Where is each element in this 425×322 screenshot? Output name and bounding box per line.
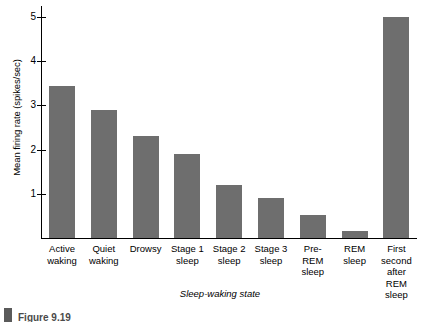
y-axis-line [41, 6, 42, 239]
caption-swatch-icon [4, 308, 12, 322]
x-category-label: Stage 1 sleep [165, 243, 211, 266]
x-category-label: Pre- REM sleep [290, 243, 336, 278]
bar [91, 110, 117, 238]
y-tick-label: 3 [30, 100, 36, 110]
y-tick-label: 1 [30, 189, 36, 199]
x-category-label: Active waking [39, 243, 85, 266]
bar [216, 185, 242, 238]
caption-label: Figure 9.19 [18, 312, 71, 322]
x-category-label: Drowsy [123, 243, 169, 255]
x-category-label: Stage 3 sleep [248, 243, 294, 266]
bar [383, 17, 409, 238]
x-category-label: Stage 2 sleep [206, 243, 252, 266]
y-tick-label: 4 [30, 56, 36, 66]
bar [49, 86, 75, 238]
y-axis-title: Mean firing rate (spikes/sec) [11, 18, 22, 218]
figure-caption: Figure 9.19 [2, 306, 425, 322]
x-category-label: Quiet waking [81, 243, 127, 266]
y-tick-mark [37, 150, 46, 151]
plot-area: 12345 [41, 6, 417, 239]
y-tick-label: 5 [30, 12, 36, 22]
y-tick-label: 2 [30, 145, 36, 155]
x-axis-title: Sleep-waking state [150, 288, 290, 299]
y-tick-mark [37, 61, 46, 62]
figure-bar-chart: Mean firing rate (spikes/sec) 12345 Acti… [0, 0, 425, 322]
bar [174, 154, 200, 238]
bar [258, 198, 284, 238]
bar [342, 231, 368, 238]
x-category-label: REM sleep [332, 243, 378, 266]
y-tick-mark [37, 105, 46, 106]
y-tick-mark [37, 17, 46, 18]
y-tick-mark [37, 194, 46, 195]
x-axis-line [41, 238, 417, 239]
bar [300, 215, 326, 238]
x-category-label: First second after REM sleep [374, 243, 420, 301]
bar [133, 136, 159, 238]
